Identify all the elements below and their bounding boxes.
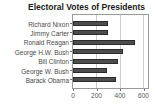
y-tick — [70, 32, 72, 33]
category-label-bill-clinton: Bill Clinton — [38, 58, 69, 65]
y-tick — [70, 60, 72, 61]
bar-george-h-w-bush — [73, 49, 123, 54]
y-tick — [70, 70, 72, 71]
y-tick — [70, 79, 72, 80]
x-tick-label-200: 200 — [91, 92, 102, 99]
y-tick — [70, 23, 72, 24]
x-tick-600 — [144, 89, 145, 91]
x-tick-0 — [73, 89, 74, 91]
bar-bill-clinton — [73, 59, 118, 64]
y-tick — [70, 51, 72, 52]
category-axis-labels: Richard NixonJimmy CarterRonald ReaganGe… — [0, 14, 70, 89]
y-tick — [70, 41, 72, 42]
x-tick-label-600: 600 — [138, 92, 149, 99]
x-tick-400 — [120, 89, 121, 91]
x-tick-label-0: 0 — [71, 92, 75, 99]
x-tick-200 — [97, 89, 98, 91]
category-label-george-w-bush: George W. Bush — [21, 67, 69, 74]
plot-area — [72, 14, 149, 89]
x-tick-label-400: 400 — [115, 92, 126, 99]
bar-richard-nixon — [73, 21, 108, 26]
bar-george-w-bush — [73, 68, 107, 73]
category-label-george-h-w-bush: George H.W. Bush — [15, 48, 69, 55]
gridline-x-600 — [143, 15, 144, 88]
chart-title: Electoral Votes of Presidents — [18, 2, 155, 12]
bar-barack-obama — [73, 77, 116, 82]
category-label-barack-obama: Barack Obama — [26, 76, 69, 83]
category-label-richard-nixon: Richard Nixon — [28, 20, 69, 27]
category-label-jimmy-carter: Jimmy Carter — [30, 29, 69, 36]
bar-ronald-reagan — [73, 40, 135, 45]
bar-chart: Electoral Votes of Presidents Richard Ni… — [0, 0, 155, 108]
category-label-ronald-reagan: Ronald Reagan — [24, 39, 69, 46]
bar-jimmy-carter — [73, 30, 108, 35]
